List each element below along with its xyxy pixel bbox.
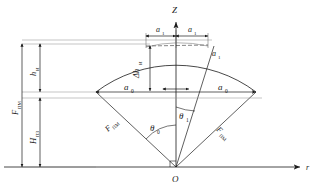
f-pm-right-subscript: ПМ <box>218 133 228 143</box>
f-pm-left-label: F <box>102 123 113 134</box>
technical-diagram: r Z O θ 0 θ 1 F ПМ F ПМ <box>0 0 321 190</box>
F-pm-outer-subscript: ПМ <box>17 100 22 109</box>
sector-geometry-figure: r Z O θ 0 θ 1 F ПМ F ПМ <box>0 0 321 190</box>
h-i-group: h И <box>28 67 40 76</box>
delta-h-label: Δh <box>131 69 141 79</box>
F-pm-outer-group: F ПМ <box>10 100 22 116</box>
h-i-subscript: И <box>35 67 40 71</box>
delta-h-group: Δh И <box>131 61 143 79</box>
theta1-subscript: 1 <box>186 117 189 123</box>
r-axis-label: r <box>306 163 310 172</box>
f-pm-left-subscript: ПМ <box>111 121 121 131</box>
a1-left-label: a <box>156 25 160 34</box>
theta0-subscript: 0 <box>157 129 160 135</box>
theta1-label: θ <box>179 111 184 121</box>
apex-inner-arc <box>146 43 208 47</box>
H-pz-subscript: ПЗ <box>35 130 40 137</box>
f-pm-left-group: F ПМ <box>102 117 121 135</box>
a1-right-label: a <box>188 25 192 34</box>
f-pm-right-group: F ПМ <box>213 124 232 142</box>
a0-right-label: a <box>218 82 223 92</box>
a0-left-label: a <box>124 82 129 92</box>
origin-label: O <box>172 174 179 184</box>
H-pz-group: H ПЗ <box>28 130 40 145</box>
H-pz-label: H <box>28 137 38 145</box>
z-axis-label: Z <box>172 5 178 15</box>
h-i-label: h <box>28 72 38 76</box>
a1-arc-label: a <box>212 49 216 58</box>
a1-left-subscript: 1 <box>162 31 165 36</box>
theta0-label: θ <box>150 123 155 133</box>
a0-right-subscript: 0 <box>225 88 228 94</box>
a0-left-subscript: 0 <box>131 88 134 94</box>
a1-arc-subscript: 1 <box>218 55 221 60</box>
a1-right-subscript: 1 <box>194 31 197 36</box>
delta-h-subscript: И <box>138 61 143 65</box>
F-pm-outer-label: F <box>10 109 20 116</box>
